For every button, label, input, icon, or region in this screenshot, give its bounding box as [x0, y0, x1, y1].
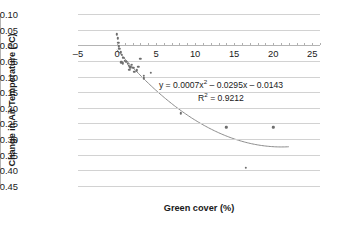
gridline-y	[78, 123, 320, 124]
x-tick-label: 0	[114, 48, 119, 59]
y-tick-label: –0.15	[0, 87, 18, 98]
x-minor-tick	[117, 43, 118, 45]
x-minor-tick	[289, 43, 290, 45]
x-minor-tick	[133, 43, 134, 45]
x-minor-tick	[148, 43, 149, 45]
x-axis-title: Green cover (%)	[78, 203, 320, 213]
x-minor-tick	[234, 43, 235, 45]
x-minor-tick	[125, 43, 126, 45]
x-minor-tick	[211, 43, 212, 45]
y-tick-label: –0.40	[0, 165, 18, 176]
y-tick-label: –0.30	[0, 134, 18, 145]
x-tick-label: 25	[307, 48, 317, 59]
y-tick-label: 0.10	[0, 9, 18, 20]
gridline-y	[78, 186, 320, 187]
regression-equation-annotation: y = 0.0007x2 – 0.0295x – 0.0143 R2 = 0.9…	[146, 78, 296, 105]
y-tick-label: –0.20	[0, 102, 18, 113]
x-tick-label: 15	[229, 48, 239, 59]
gridline-y	[78, 108, 320, 109]
gridline-y	[78, 61, 320, 62]
y-tick-label: –0.25	[0, 118, 18, 129]
x-minor-tick	[312, 43, 313, 45]
gridline-y	[78, 30, 320, 31]
gridline-y	[78, 14, 320, 15]
x-minor-tick	[320, 43, 321, 45]
x-minor-tick	[187, 43, 188, 45]
x-minor-tick	[164, 43, 165, 45]
x-tick-label: –5	[73, 48, 83, 59]
equation-prefix: y = 0.0007x	[159, 80, 204, 90]
x-minor-tick	[281, 43, 282, 45]
x-minor-tick	[156, 43, 157, 45]
x-axis-line	[78, 45, 320, 46]
r-squared-suffix: = 0.9212	[208, 93, 244, 103]
y-tick-label: –0.05	[0, 55, 18, 66]
x-minor-tick	[226, 43, 227, 45]
x-minor-tick	[297, 43, 298, 45]
equation-suffix: – 0.0295x – 0.0143	[207, 80, 283, 90]
x-minor-tick	[179, 43, 180, 45]
y-tick-label: 0.00	[0, 40, 18, 51]
y-tick-label: –0.45	[0, 181, 18, 192]
y-axis-title-label: Change in Air Temperature (°C)	[7, 34, 17, 167]
x-minor-tick	[203, 43, 204, 45]
x-minor-tick	[242, 43, 243, 45]
x-minor-tick	[195, 43, 196, 45]
x-minor-tick	[172, 43, 173, 45]
y-tick-label: –0.10	[0, 71, 18, 82]
x-minor-tick	[250, 43, 251, 45]
gridline-y	[78, 139, 320, 140]
y-tick-label: –0.35	[0, 149, 18, 160]
x-tick-label: 10	[190, 48, 200, 59]
r-squared-line: R2 = 0.9212	[146, 91, 296, 104]
x-minor-tick	[140, 43, 141, 45]
x-minor-tick	[258, 43, 259, 45]
x-minor-tick	[219, 43, 220, 45]
x-minor-tick	[273, 43, 274, 45]
chart-container: Change in Air Temperature (°C) y = 0.000…	[0, 0, 344, 225]
gridline-y	[78, 155, 320, 156]
x-tick-label: 20	[268, 48, 278, 59]
equation-line: y = 0.0007x2 – 0.0295x – 0.0143	[146, 78, 296, 91]
x-tick-label: 5	[153, 48, 158, 59]
gridline-y	[78, 170, 320, 171]
y-tick-label: 0.05	[0, 24, 18, 35]
x-minor-tick	[304, 43, 305, 45]
x-minor-tick	[265, 43, 266, 45]
